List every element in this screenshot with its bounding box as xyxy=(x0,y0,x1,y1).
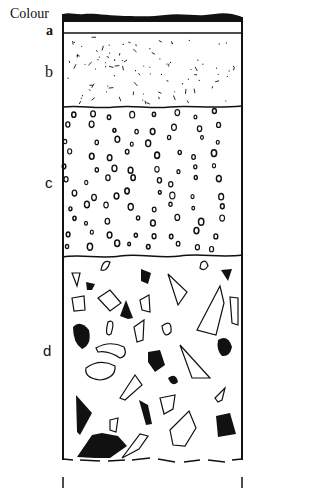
pebble xyxy=(131,175,135,181)
particle xyxy=(189,40,190,41)
particle xyxy=(233,66,234,67)
particle xyxy=(197,60,198,61)
stone xyxy=(148,350,165,372)
particle xyxy=(123,44,124,45)
pebble xyxy=(152,112,155,116)
pebble xyxy=(84,201,89,207)
particle xyxy=(142,99,143,100)
stone xyxy=(120,300,133,319)
particle xyxy=(122,60,123,61)
particle xyxy=(85,64,86,65)
pebble xyxy=(212,108,216,113)
particle xyxy=(81,98,82,99)
stone xyxy=(140,295,150,312)
pebble xyxy=(107,155,112,161)
pebble xyxy=(89,153,94,159)
pebble xyxy=(90,230,93,234)
stone xyxy=(168,274,187,305)
pebble xyxy=(72,190,77,196)
pebble xyxy=(112,165,117,171)
pebble xyxy=(169,202,172,206)
particle xyxy=(92,98,95,101)
particle xyxy=(114,60,115,61)
pebble xyxy=(87,243,92,250)
pebble xyxy=(220,204,224,209)
layer-c-pebbles xyxy=(62,108,224,251)
particle xyxy=(115,66,120,67)
particle xyxy=(79,101,80,104)
pebble xyxy=(198,218,203,225)
particle xyxy=(109,66,113,67)
pebble xyxy=(107,115,110,119)
pebble xyxy=(64,177,68,182)
pebble xyxy=(169,182,173,187)
stone xyxy=(168,376,178,385)
stone xyxy=(197,286,224,335)
stone xyxy=(216,413,236,437)
pebble xyxy=(114,193,119,199)
pebble xyxy=(134,233,137,237)
pebble xyxy=(216,140,219,144)
stone xyxy=(77,433,127,458)
pebble xyxy=(210,247,214,252)
particle xyxy=(145,101,146,104)
particle xyxy=(168,64,169,66)
stone xyxy=(221,269,232,281)
particle xyxy=(170,62,171,63)
stone xyxy=(215,388,225,402)
particle xyxy=(227,76,228,77)
particle xyxy=(99,56,100,57)
particle xyxy=(216,67,217,68)
pebble xyxy=(194,115,197,119)
pebble xyxy=(155,166,159,172)
particle xyxy=(138,73,140,75)
layer-b-particles xyxy=(68,37,235,104)
particle xyxy=(119,97,120,101)
particle xyxy=(225,100,226,101)
particle xyxy=(159,58,160,59)
pebble xyxy=(146,140,151,147)
particle xyxy=(109,52,110,53)
stone xyxy=(160,395,175,414)
pebble xyxy=(69,207,72,211)
stone xyxy=(73,324,90,349)
pebble xyxy=(158,190,161,194)
particle xyxy=(202,64,203,65)
particle xyxy=(149,67,150,68)
particle xyxy=(174,91,175,92)
particle xyxy=(88,62,91,65)
pebble xyxy=(194,165,197,169)
stone xyxy=(134,320,144,342)
pebble xyxy=(150,128,155,134)
stone xyxy=(98,290,121,311)
pebble xyxy=(130,142,133,146)
stone xyxy=(230,297,238,325)
pebble xyxy=(194,227,199,233)
particle xyxy=(152,53,155,55)
pebble xyxy=(191,195,194,199)
particle xyxy=(133,49,136,52)
pebble xyxy=(177,170,180,174)
pebble xyxy=(212,164,215,168)
particle xyxy=(143,93,144,94)
pebble xyxy=(95,140,98,144)
pebble xyxy=(130,111,135,118)
pebble xyxy=(125,188,129,194)
pebble xyxy=(68,149,72,154)
pebble xyxy=(192,155,196,160)
pebble xyxy=(176,241,180,246)
particle xyxy=(73,41,74,45)
pebble xyxy=(170,192,175,199)
particle xyxy=(114,75,115,76)
pebble xyxy=(85,221,88,225)
particle xyxy=(168,65,169,66)
pebble xyxy=(167,135,170,139)
stone xyxy=(110,418,118,432)
top-dark-band xyxy=(63,13,242,22)
particle xyxy=(68,78,69,79)
stone xyxy=(139,400,152,425)
particle xyxy=(105,62,106,63)
pebble xyxy=(65,244,68,248)
particle xyxy=(219,43,220,44)
stone xyxy=(86,362,115,380)
